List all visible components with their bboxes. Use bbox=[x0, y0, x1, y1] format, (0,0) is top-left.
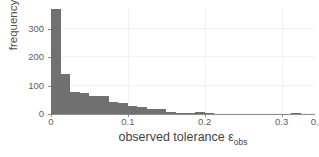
y-axis-tick-label: 300 bbox=[28, 24, 44, 34]
y-axis-tick-label: 100 bbox=[28, 81, 44, 91]
x-axis-title-text: observed tolerance bbox=[118, 130, 224, 144]
gridline-horizontal bbox=[51, 85, 315, 86]
histogram-bar bbox=[99, 96, 109, 114]
x-axis-tick-label: 0.3 bbox=[275, 116, 288, 127]
x-axis-tick-label: 0.1 bbox=[121, 116, 134, 127]
histogram-bar bbox=[80, 93, 90, 114]
y-axis-tick bbox=[48, 57, 51, 58]
y-axis-tick-label: 200 bbox=[28, 52, 44, 62]
gridline-vertical bbox=[128, 8, 129, 114]
histogram-bar bbox=[137, 107, 147, 114]
y-axis-tick bbox=[48, 86, 51, 87]
y-axis-tick bbox=[48, 29, 51, 30]
gridline-vertical bbox=[205, 8, 206, 114]
y-axis-tick bbox=[48, 114, 51, 115]
x-axis-tick-label: 0 bbox=[48, 116, 53, 127]
y-axis-tick-label: 0 bbox=[39, 109, 44, 119]
x-axis-symbol-subscript: obs bbox=[234, 137, 248, 147]
histogram-bar bbox=[51, 9, 61, 114]
histogram-bar bbox=[128, 106, 138, 114]
plot-area bbox=[51, 8, 315, 114]
histogram-bar bbox=[109, 102, 119, 114]
histogram-figure: frequency observed tolerance εobs 00.10.… bbox=[0, 0, 319, 157]
histogram-bar bbox=[118, 103, 128, 114]
x-axis-line bbox=[51, 114, 315, 115]
x-axis-tick-label: 0.35 bbox=[311, 116, 319, 127]
gridline-horizontal bbox=[51, 56, 315, 57]
histogram-bar bbox=[89, 96, 99, 114]
gridline-horizontal bbox=[51, 28, 315, 29]
x-axis-title: observed tolerance εobs bbox=[51, 130, 315, 147]
gridline-vertical bbox=[282, 8, 283, 114]
histogram-bar bbox=[70, 92, 80, 114]
x-axis-tick-label: 0.2 bbox=[198, 116, 211, 127]
y-axis-title: frequency bbox=[7, 0, 19, 72]
histogram-bar bbox=[61, 74, 71, 114]
